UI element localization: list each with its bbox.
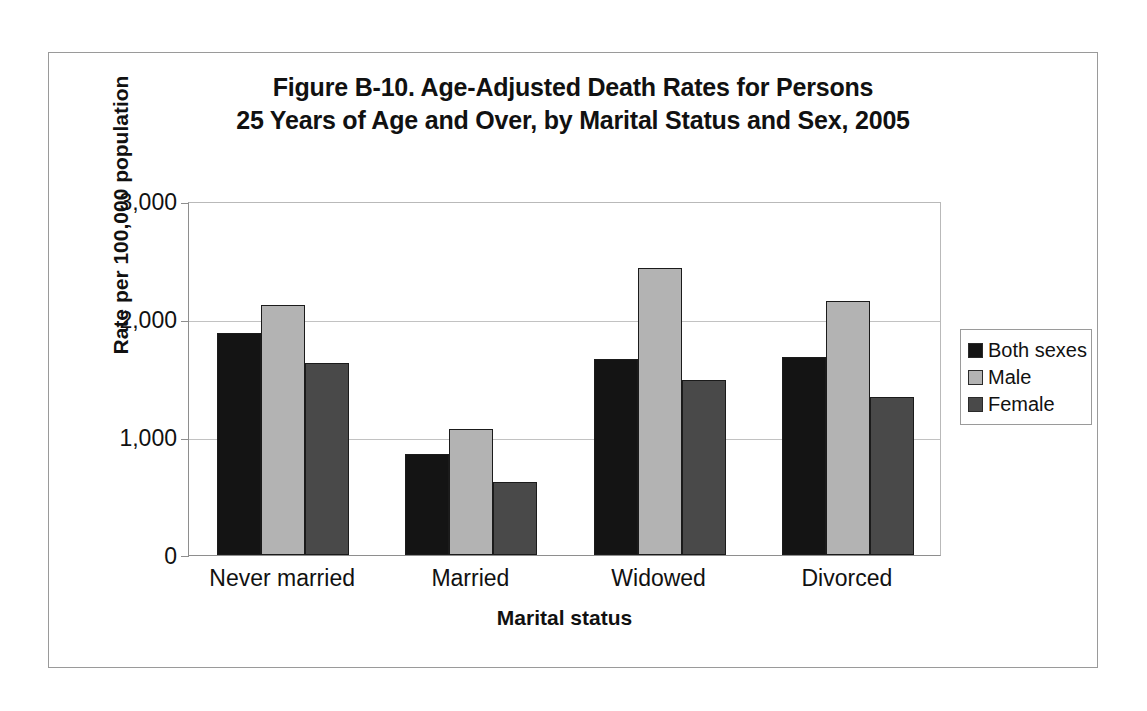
x-axis-title: Marital status — [188, 606, 941, 630]
y-tick-label-3000: 3,000 — [119, 189, 177, 216]
bar[interactable] — [449, 429, 493, 555]
bar[interactable] — [493, 482, 537, 555]
bar-group — [594, 203, 726, 555]
bar-group — [405, 203, 537, 555]
x-tick-label: Divorced — [801, 565, 892, 592]
x-tick-label: Widowed — [611, 565, 706, 592]
y-tick-label-2000: 2,000 — [119, 307, 177, 334]
x-tick-label: Never married — [209, 565, 355, 592]
bar[interactable] — [870, 397, 914, 555]
y-tick-label-1000: 1,000 — [119, 425, 177, 452]
x-tick-label: Married — [431, 565, 509, 592]
bar[interactable] — [305, 363, 349, 555]
legend-item-label: Both sexes — [988, 339, 1087, 362]
bar[interactable] — [682, 380, 726, 555]
bar-group — [782, 203, 914, 555]
legend-swatch-icon — [968, 343, 983, 358]
figure-frame: Figure B-10. Age-Adjusted Death Rates fo… — [48, 52, 1098, 668]
legend-swatch-icon — [968, 370, 983, 385]
bar[interactable] — [261, 305, 305, 555]
y-tick-label-0: 0 — [164, 543, 177, 570]
y-tick-mark-0 — [181, 556, 189, 557]
bar[interactable] — [217, 333, 261, 555]
y-tick-mark-3000 — [181, 203, 189, 204]
legend-item-label: Male — [988, 366, 1031, 389]
plot-area — [188, 202, 941, 556]
bar[interactable] — [638, 268, 682, 555]
y-tick-mark-2000 — [181, 321, 189, 322]
bar[interactable] — [782, 357, 826, 555]
bar[interactable] — [405, 454, 449, 555]
legend-item[interactable]: Female — [968, 391, 1091, 418]
chart-legend: Both sexesMaleFemale — [960, 329, 1092, 425]
legend-item[interactable]: Male — [968, 364, 1091, 391]
chart-title-line-2: 25 Years of Age and Over, by Marital Sta… — [49, 104, 1097, 137]
legend-item[interactable]: Both sexes — [968, 337, 1091, 364]
chart-title-line-1: Figure B-10. Age-Adjusted Death Rates fo… — [49, 71, 1097, 104]
y-tick-mark-1000 — [181, 439, 189, 440]
legend-swatch-icon — [968, 397, 983, 412]
chart-title: Figure B-10. Age-Adjusted Death Rates fo… — [49, 71, 1097, 137]
bar[interactable] — [594, 359, 638, 555]
x-axis-tick-labels: Never marriedMarriedWidowedDivorced — [188, 565, 941, 595]
y-axis-tick-labels: 0 1,000 2,000 3,000 — [73, 202, 177, 556]
bar[interactable] — [826, 301, 870, 555]
legend-item-label: Female — [988, 393, 1055, 416]
bar-group — [217, 203, 349, 555]
